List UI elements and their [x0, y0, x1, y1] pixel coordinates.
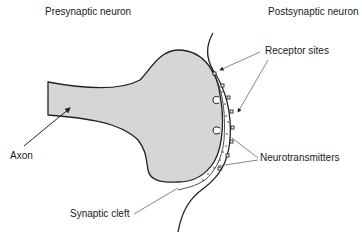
label-synaptic-cleft: Synaptic cleft [70, 208, 129, 220]
synapse-diagram [0, 0, 362, 247]
label-postsynaptic-neuron: Postsynaptic neuron [268, 6, 359, 18]
label-axon: Axon [10, 150, 33, 162]
label-neurotransmitters: Neurotransmitters [260, 152, 339, 164]
label-receptor-sites: Receptor sites [265, 45, 329, 57]
label-presynaptic-neuron: Presynaptic neuron [45, 6, 131, 18]
axon-arrow [24, 108, 70, 146]
presynaptic-terminal [48, 50, 222, 182]
